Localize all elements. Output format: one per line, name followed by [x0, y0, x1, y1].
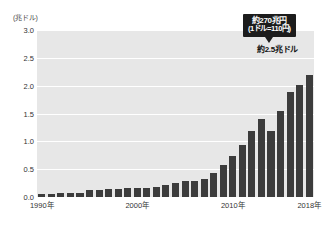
bar [287, 92, 294, 197]
bar [115, 189, 122, 197]
bar [229, 156, 236, 197]
y-axis-tick-label: 0.5 [4, 165, 34, 174]
bar [210, 173, 217, 197]
bar [191, 181, 198, 197]
bar [220, 165, 227, 197]
bar [86, 190, 93, 197]
bar [96, 190, 103, 197]
bar [67, 193, 74, 197]
y-axis-tick-labels: 3.02.52.01.51.00.50.0 [3, 30, 34, 197]
y-axis-unit-label: (兆ドル) [13, 12, 38, 22]
x-axis-tick-label: 2010年 [221, 199, 245, 210]
bar [105, 189, 112, 197]
value-annotation-label: 約2.5兆ドル [257, 43, 298, 54]
bar [258, 119, 265, 197]
bar [267, 131, 274, 197]
y-axis-tick-label: 3.0 [4, 26, 34, 35]
bar [162, 185, 169, 197]
bar [182, 181, 189, 197]
bar [38, 194, 45, 197]
gridline [37, 197, 314, 198]
bar [306, 75, 313, 197]
bar [76, 193, 83, 197]
x-axis-tick-label: 1990年 [30, 199, 54, 210]
bar [239, 145, 246, 197]
bar [134, 188, 141, 197]
y-axis-tick-label: 1.5 [4, 109, 34, 118]
x-axis-tick-label: 2000年 [125, 199, 149, 210]
bar [277, 111, 284, 197]
bar [57, 193, 64, 197]
bar-series [37, 30, 314, 197]
y-axis-tick-label: 2.5 [4, 53, 34, 62]
callout-line-2: (1ドル=110円) [248, 25, 291, 34]
bar [172, 183, 179, 197]
x-axis-tick-labels: 1990年2000年2010年2018年 [37, 199, 314, 213]
bar [296, 85, 303, 197]
bar [124, 188, 131, 197]
x-axis-tick-label: 2018年 [297, 199, 321, 210]
y-axis-tick-label: 1.0 [4, 137, 34, 146]
bar [143, 188, 150, 197]
bar-chart-figure: (兆ドル) 3.02.52.01.51.00.50.0 1990年2000年20… [0, 0, 331, 230]
bar [48, 194, 55, 197]
callout-annotation: 約270兆円 (1ドル=110円) [243, 14, 296, 37]
bar [201, 179, 208, 197]
y-axis-tick-label: 2.0 [4, 81, 34, 90]
bar [248, 131, 255, 197]
bar [153, 187, 160, 197]
